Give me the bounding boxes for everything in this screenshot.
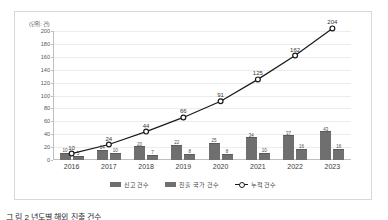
line-value-label: 24	[106, 136, 113, 142]
line-value-label: 44	[143, 123, 150, 129]
line-marker[interactable]	[255, 77, 260, 82]
legend-swatch-line	[235, 182, 248, 188]
line-marker[interactable]	[330, 26, 335, 31]
y-axis-tick-label: 0	[47, 157, 50, 163]
y-axis-tick-label: 40	[44, 131, 50, 137]
x-axis-ticks: 20162017201820192020202120222023	[53, 163, 351, 175]
y-axis-tick-label: 200	[41, 28, 50, 34]
legend-label-line: 누적 건수	[251, 180, 277, 189]
line-marker[interactable]	[181, 115, 186, 120]
x-axis-tick-label: 2017	[90, 163, 127, 175]
x-axis-tick-label: 2023	[314, 163, 351, 175]
x-axis-tick-label: 2018	[128, 163, 165, 175]
y-axis-tick-label: 120	[41, 80, 50, 86]
line-marker[interactable]	[293, 53, 298, 58]
legend-item-declarations[interactable]: 신고 건수	[110, 180, 150, 189]
y-axis-tick-label: 20	[44, 144, 50, 150]
y-axis-tick-label: 160	[41, 54, 50, 60]
x-axis-tick-label: 2019	[165, 163, 202, 175]
chart-legend: 신고 건수 진출 국가 건수 누적 건수	[15, 180, 371, 189]
legend-item-cumulative[interactable]: 누적 건수	[235, 180, 277, 189]
y-axis-tick-mark	[51, 160, 53, 161]
x-axis-tick-label: 2021	[239, 163, 276, 175]
x-axis-tick-label: 2020	[202, 163, 239, 175]
line-value-label: 204	[327, 19, 337, 25]
line-value-label: 162	[290, 47, 300, 53]
line-value-label: 91	[217, 92, 224, 98]
line-value-label: 125	[253, 70, 263, 76]
y-axis-tick-label: 60	[44, 118, 50, 124]
legend-swatch-bar1	[110, 182, 121, 187]
legend-swatch-bar2	[165, 182, 176, 187]
y-axis-tick-label: 100	[41, 93, 50, 99]
legend-label-bar2: 진출 국가 건수	[179, 180, 218, 189]
line-marker[interactable]	[144, 129, 149, 134]
unit-label: (단위: 건)	[29, 20, 49, 28]
y-axis-tick-label: 80	[44, 105, 50, 111]
chart-figure-frame: (단위: 건) 020406080100120140160180200 1051…	[14, 11, 372, 200]
line-marker[interactable]	[218, 99, 223, 104]
legend-item-countries[interactable]: 진출 국가 건수	[165, 180, 218, 189]
cumulative-line-series	[53, 31, 351, 160]
y-axis-tick-label: 140	[41, 67, 50, 73]
x-axis-tick-label: 2022	[277, 163, 314, 175]
line-value-label: 66	[180, 108, 187, 114]
plot-area: 020406080100120140160180200 105141020722…	[53, 31, 351, 160]
line-marker[interactable]	[106, 142, 111, 147]
legend-label-bar1: 신고 건수	[124, 180, 150, 189]
x-axis-tick-label: 2016	[53, 163, 90, 175]
line-marker[interactable]	[69, 151, 74, 156]
line-value-label: 10	[68, 145, 75, 151]
figure-caption: 그 림 2 년도별 해외 진출 건수	[6, 211, 101, 220]
y-axis-tick-label: 180	[41, 41, 50, 47]
